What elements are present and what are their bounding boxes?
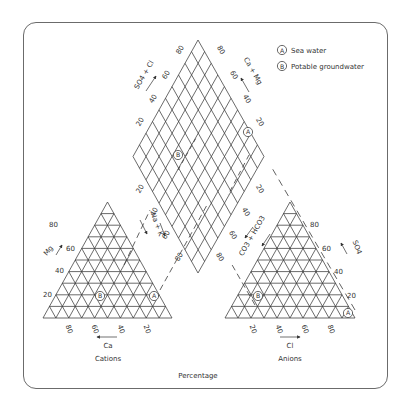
tick-label: 80 <box>215 44 226 56</box>
na-k-arrow-icon-1 <box>140 220 147 234</box>
so4-cl-axis-label: SO4 + Cl <box>133 59 156 90</box>
tick-label: 80 <box>49 221 58 229</box>
tick-label: 60 <box>322 245 331 253</box>
tick-label: 40 <box>148 93 159 105</box>
piper-diagram: ABABAB A Sea water B Potable groundwater… <box>0 0 408 406</box>
diamond-grid <box>133 40 264 273</box>
mg-axis: Mg <box>42 244 55 257</box>
cl-axis-label: Cl <box>287 342 294 350</box>
tick-label: 20 <box>142 324 153 335</box>
anions-title: Anions <box>278 355 302 363</box>
anion-triangle-grid <box>225 202 355 318</box>
ca-mg-axis: Ca + Mg <box>242 56 264 86</box>
tick-label: 60 <box>227 229 238 241</box>
cations-title: Cations <box>95 355 122 363</box>
na-k-axis-label: Na + K <box>149 211 165 237</box>
legend-marker-b: B <box>280 63 284 70</box>
mg-axis-label: Mg <box>42 244 55 257</box>
tick-label: 80 <box>175 44 186 56</box>
legend-label-sea-water: Sea water <box>291 47 326 55</box>
cation-point-b: B <box>98 292 102 299</box>
legend-label-potable-groundwater: Potable groundwater <box>291 63 364 71</box>
tick-label: 20 <box>254 183 265 195</box>
tick-label: 40 <box>274 324 285 335</box>
tick-label: 20 <box>248 324 259 335</box>
tick-label: 80 <box>326 324 337 335</box>
anion-bottom-axis-ticks: 20 40 60 80 <box>248 324 337 335</box>
diamond-point-b: B <box>176 151 180 158</box>
cation-bottom-axis-ticks: 80 60 40 20 <box>64 324 153 335</box>
so4-cl-axis: SO4 + Cl <box>133 59 156 90</box>
ca-axis-label: Ca <box>103 342 112 350</box>
tick-label: 40 <box>241 93 252 105</box>
mg-arrow-icon <box>56 245 62 255</box>
tick-label: 60 <box>90 324 101 335</box>
so4-axis: SO4 <box>351 239 364 256</box>
so4-arrow-icon <box>341 243 347 254</box>
tick-label: 60 <box>66 245 75 253</box>
ca-mg-arrow-icon <box>241 78 249 92</box>
tick-label: 60 <box>300 324 311 335</box>
tick-label: 40 <box>240 206 251 218</box>
cation-left-axis-ticks: 80 60 40 20 <box>43 221 75 299</box>
tick-label: 80 <box>64 324 75 335</box>
tick-label: 20 <box>135 183 146 195</box>
tick-label: 60 <box>228 69 239 81</box>
tick-label: 60 <box>161 69 172 81</box>
tick-label: 80 <box>214 251 225 263</box>
tick-label: 80 <box>174 251 185 263</box>
na-k-axis: Na + K <box>149 211 165 237</box>
so4-axis-label: SO4 <box>351 239 364 256</box>
tick-label: 20 <box>135 116 146 128</box>
tick-label: 20 <box>347 292 356 300</box>
tick-label: 40 <box>334 268 343 276</box>
so4-cl-arrow-icon <box>146 76 156 91</box>
tick-label: 40 <box>55 267 64 275</box>
anion-point-b: B <box>256 292 260 299</box>
ca-mg-axis-label: Ca + Mg <box>242 56 264 86</box>
legend: A Sea water B Potable groundwater <box>277 45 364 70</box>
percentage-label: Percentage <box>178 372 217 380</box>
tick-label: 20 <box>43 291 52 299</box>
tick-label: 40 <box>116 324 127 335</box>
tick-label: 80 <box>310 221 319 229</box>
tick-label: 20 <box>254 116 265 128</box>
